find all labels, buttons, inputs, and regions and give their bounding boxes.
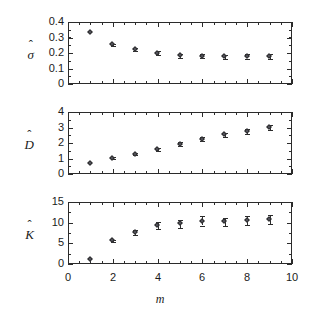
error-bar-cap — [223, 226, 228, 227]
x-minor-tick — [258, 112, 259, 115]
y-minor-tick — [289, 120, 292, 121]
y-tick-label: 0 — [20, 258, 64, 269]
x-minor-tick — [113, 112, 114, 115]
x-minor-tick — [191, 112, 192, 115]
x-minor-tick — [124, 22, 125, 25]
x-tick-label: 6 — [187, 272, 217, 283]
x-minor-tick — [270, 171, 271, 174]
y-minor-tick — [68, 254, 71, 255]
x-minor-tick — [281, 261, 282, 264]
x-minor-tick — [90, 202, 91, 205]
y-tick-label: 2 — [20, 137, 64, 148]
y-minor-tick — [289, 151, 292, 152]
x-minor-tick — [135, 112, 136, 115]
x-minor-tick — [281, 171, 282, 174]
x-minor-tick — [236, 112, 237, 115]
x-minor-tick — [79, 112, 80, 115]
y-tick-label: 1 — [20, 153, 64, 164]
x-minor-tick — [135, 261, 136, 264]
x-minor-tick — [270, 261, 271, 264]
x-minor-tick — [113, 81, 114, 84]
y-minor-tick — [68, 37, 71, 38]
y-minor-tick — [68, 76, 71, 77]
y-minor-tick — [68, 84, 71, 85]
error-bar-cap — [133, 235, 138, 236]
x-minor-tick — [113, 202, 114, 205]
x-minor-tick — [247, 112, 248, 115]
y-minor-tick — [68, 166, 71, 167]
x-minor-tick — [236, 22, 237, 25]
y-minor-tick — [289, 264, 292, 265]
y-minor-tick — [289, 61, 292, 62]
y-minor-tick — [289, 135, 292, 136]
x-minor-tick — [113, 261, 114, 264]
x-minor-tick — [68, 81, 69, 84]
x-minor-tick — [169, 22, 170, 25]
x-minor-tick — [146, 202, 147, 205]
x-minor-tick — [90, 112, 91, 115]
error-bar-cap — [245, 134, 250, 135]
x-minor-tick — [90, 171, 91, 174]
x-minor-tick — [146, 261, 147, 264]
x-minor-tick — [68, 202, 69, 205]
y-minor-tick — [68, 69, 71, 70]
x-minor-tick — [214, 81, 215, 84]
y-minor-tick — [289, 69, 292, 70]
y-major-tick — [68, 38, 73, 39]
y-minor-tick — [289, 53, 292, 54]
y-minor-tick — [289, 128, 292, 129]
x-minor-tick — [225, 81, 226, 84]
error-bar-cap — [245, 59, 250, 60]
y-minor-tick — [289, 143, 292, 144]
x-minor-tick — [68, 22, 69, 25]
x-minor-tick — [281, 202, 282, 205]
x-minor-tick — [169, 112, 170, 115]
y-minor-tick — [289, 254, 292, 255]
x-minor-tick — [124, 171, 125, 174]
x-minor-tick — [79, 202, 80, 205]
y-tick-label: 0 — [20, 168, 64, 179]
y-minor-tick — [68, 61, 71, 62]
x-minor-tick — [169, 171, 170, 174]
y-tick-label: 0.4 — [20, 16, 64, 27]
x-minor-tick — [270, 81, 271, 84]
x-tick-label: 0 — [53, 272, 83, 283]
y-tick-label: 5 — [20, 237, 64, 248]
x-minor-tick — [247, 261, 248, 264]
x-minor-tick — [124, 81, 125, 84]
x-axis-title: m — [150, 292, 170, 307]
x-minor-tick — [68, 112, 69, 115]
y-minor-tick — [68, 264, 71, 265]
x-minor-tick — [102, 81, 103, 84]
y-minor-tick — [289, 233, 292, 234]
x-minor-tick — [236, 261, 237, 264]
error-bar-cap — [200, 216, 205, 217]
x-minor-tick — [90, 81, 91, 84]
y-minor-tick — [289, 166, 292, 167]
y-tick-label: 3 — [20, 122, 64, 133]
x-minor-tick — [258, 22, 259, 25]
x-minor-tick — [79, 171, 80, 174]
y-minor-tick — [289, 76, 292, 77]
x-minor-tick — [146, 22, 147, 25]
x-minor-tick — [102, 171, 103, 174]
x-minor-tick — [270, 202, 271, 205]
x-minor-tick — [292, 112, 293, 115]
x-minor-tick — [68, 171, 69, 174]
x-minor-tick — [247, 202, 248, 205]
x-minor-tick — [79, 261, 80, 264]
x-tick-label: 8 — [232, 272, 262, 283]
error-bar-cap — [178, 58, 183, 59]
error-bar-cap — [178, 228, 183, 229]
y-minor-tick — [68, 212, 71, 213]
x-minor-tick — [281, 112, 282, 115]
x-minor-tick — [292, 171, 293, 174]
x-minor-tick — [225, 171, 226, 174]
x-minor-tick — [292, 81, 293, 84]
x-minor-tick — [113, 171, 114, 174]
y-tick-label: 0.1 — [20, 63, 64, 74]
y-tick-label: 0.3 — [20, 32, 64, 43]
x-minor-tick — [124, 202, 125, 205]
x-minor-tick — [258, 81, 259, 84]
y-tick-label: 0 — [20, 78, 64, 89]
